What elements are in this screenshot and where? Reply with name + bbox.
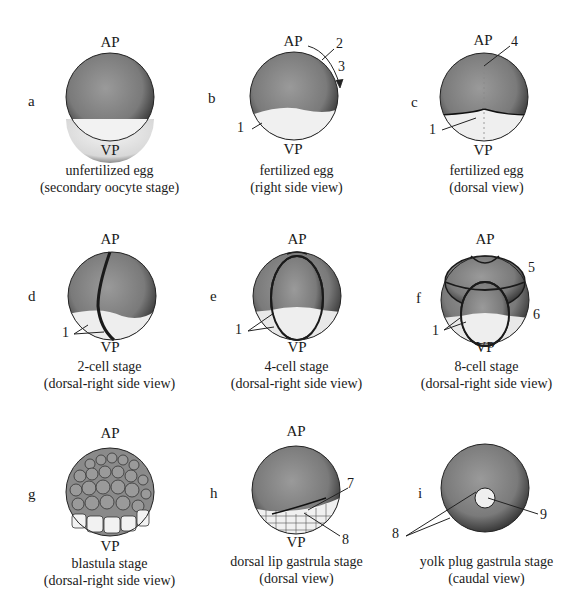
- view-label: (dorsal-right side view): [13, 375, 206, 392]
- caption: 4-cell stage (dorsal-right side view): [200, 358, 393, 392]
- caption: fertilized egg (dorsal view): [390, 162, 581, 196]
- vegetal-pole-label: VP: [90, 339, 130, 356]
- vegetal-pole-label: VP: [90, 142, 130, 159]
- label-8: 8: [392, 526, 399, 542]
- view-label: (dorsal-right side view): [13, 572, 206, 589]
- label-4: 4: [511, 34, 518, 50]
- label-9: 9: [540, 507, 547, 523]
- vegetal-pole-label: VP: [463, 142, 503, 159]
- caption: blastula stage (dorsal-right side view): [13, 555, 206, 589]
- view-label: (dorsal-right side view): [390, 375, 581, 392]
- label-1: 1: [235, 322, 242, 338]
- label-1: 1: [62, 325, 69, 341]
- vegetal-pole-label: VP: [277, 339, 317, 356]
- panel-g-blastula: g AP VP blastula stage (dorsal-right sid…: [0, 410, 193, 610]
- panel-d-2-cell: d AP 1 VP 2-cell stage (dorsal-right sid…: [0, 210, 193, 410]
- view-label: (dorsal view): [200, 570, 393, 587]
- caption: dorsal lip gastrula stage (dorsal view): [200, 553, 393, 587]
- vegetal-pole-label: VP: [465, 339, 505, 356]
- panel-a-unfertilized-egg: a AP VP unfertilized egg (secondary oocy…: [0, 0, 193, 200]
- stage-title: blastula stage: [13, 555, 206, 572]
- caption: 2-cell stage (dorsal-right side view): [13, 358, 206, 392]
- caption: unfertilized egg (secondary oocyte stage…: [13, 162, 206, 196]
- caption: yolk plug gastrula stage (caudal view): [390, 553, 581, 587]
- label-3: 3: [338, 59, 345, 75]
- label-7: 7: [347, 476, 354, 492]
- label-6: 6: [533, 307, 540, 323]
- panel-h-dorsal-lip-gastrula: h AP 7 8 VP dorsal lip gastrula stage (d…: [190, 410, 383, 610]
- stage-title: fertilized egg: [200, 162, 393, 179]
- panel-f-8-cell: f AP 5 6 1 VP 8-cell stage (dorsal-right…: [380, 210, 573, 410]
- caption: fertilized egg (right side view): [200, 162, 393, 196]
- label-2: 2: [336, 36, 343, 52]
- label-1: 1: [432, 323, 439, 339]
- stage-title: 8-cell stage: [390, 358, 581, 375]
- vegetal-pole-label: VP: [273, 141, 313, 158]
- view-label: (dorsal-right side view): [200, 375, 393, 392]
- stage-title: 2-cell stage: [13, 358, 206, 375]
- label-5: 5: [528, 260, 535, 276]
- stage-title: unfertilized egg: [13, 162, 206, 179]
- caption: 8-cell stage (dorsal-right side view): [390, 358, 581, 392]
- view-label: (right side view): [200, 179, 393, 196]
- panel-e-4-cell: e AP 1 VP 4-cell stage (dorsal-right sid…: [190, 210, 383, 410]
- label-1: 1: [429, 122, 436, 138]
- stage-title: fertilized egg: [390, 162, 581, 179]
- panel-i-yolk-plug-gastrula: i 8 9 yolk plug gastrula stage (caudal v…: [380, 410, 573, 610]
- stage-title: yolk plug gastrula stage: [390, 553, 581, 570]
- view-label: (secondary oocyte stage): [13, 179, 206, 196]
- view-label: (dorsal view): [390, 179, 581, 196]
- panel-b-fertilized-egg-side: b AP 2 3 1 VP fertilized egg (right side…: [190, 0, 383, 200]
- label-1: 1: [237, 120, 244, 136]
- view-label: (caudal view): [390, 570, 581, 587]
- stage-title: 4-cell stage: [200, 358, 393, 375]
- panel-c-fertilized-egg-dorsal: c AP 4 1 VP fertilized egg (dorsal view): [380, 0, 573, 200]
- label-8: 8: [342, 532, 349, 548]
- vegetal-pole-label: VP: [276, 534, 316, 551]
- vegetal-pole-label: VP: [90, 538, 130, 555]
- stage-title: dorsal lip gastrula stage: [200, 553, 393, 570]
